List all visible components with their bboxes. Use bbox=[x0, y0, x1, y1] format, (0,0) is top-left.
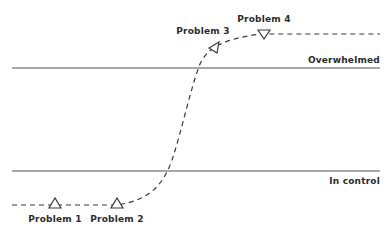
problem-4-marker bbox=[258, 30, 270, 39]
problem-2-marker bbox=[111, 198, 123, 208]
in-control-label: In control bbox=[329, 176, 380, 186]
problem-3-marker bbox=[209, 42, 219, 53]
problem-4-label: Problem 4 bbox=[237, 14, 290, 24]
triangle-down-icon bbox=[258, 30, 270, 39]
triangle-up-icon bbox=[49, 198, 61, 208]
problem-2-label: Problem 2 bbox=[90, 214, 143, 224]
diagram-svg: Overwhelmed In control Problem 1 Problem… bbox=[0, 0, 392, 232]
overwhelmed-label: Overwhelmed bbox=[308, 55, 380, 65]
problem-1-marker bbox=[49, 198, 61, 208]
triangle-left-icon bbox=[209, 42, 219, 53]
problem-1-label: Problem 1 bbox=[28, 214, 81, 224]
problem-3-label: Problem 3 bbox=[176, 26, 229, 36]
triangle-up-icon bbox=[111, 198, 123, 208]
diagram-canvas: Overwhelmed In control Problem 1 Problem… bbox=[0, 0, 392, 232]
